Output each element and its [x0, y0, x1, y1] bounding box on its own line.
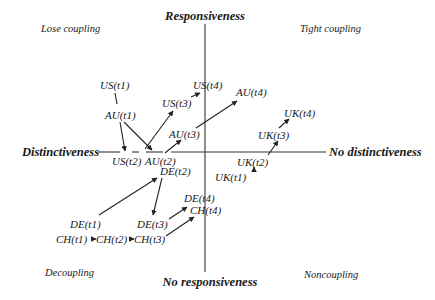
arrow-uk-t3-uk-t4 — [279, 119, 289, 128]
node-us-t1: US(t1) — [100, 79, 130, 92]
node-au-t3: AU(t3) — [168, 128, 200, 141]
node-ch-t4: CH(t4) — [190, 204, 222, 217]
node-uk-t1: UK(t1) — [215, 171, 247, 184]
node-us-t4: US(t4) — [193, 79, 223, 92]
axis-label-distinctiveness: Distinctiveness — [21, 145, 99, 159]
arrow-uk-t2-uk-t3 — [268, 141, 278, 155]
node-uk-t3: UK(t3) — [258, 129, 290, 142]
node-ch-t1: CH(t1) — [56, 233, 88, 246]
quadrant-label-lose-coupling: Lose coupling — [40, 23, 100, 34]
node-ch-t2: CH(t2) — [96, 233, 128, 246]
node-de-t1: DE(t1) — [69, 218, 101, 231]
arrow-au-t2-au-t3 — [165, 140, 181, 153]
quadrant-label-decoupling: Decoupling — [44, 267, 94, 278]
quadrant-label-noncoupling: Noncoupling — [303, 269, 358, 280]
quadrant-label-tight-coupling: Tight coupling — [300, 23, 361, 34]
arrow-us-t3-us-t4 — [191, 93, 200, 97]
axis-label-no-responsiveness: No responsiveness — [162, 275, 258, 289]
axis-label-no-distinctiveness: No distinctiveness — [328, 145, 422, 159]
arrow-de-t3-ch-t4 — [169, 207, 187, 219]
node-de-t3: DE(t3) — [136, 218, 168, 231]
node-uk-t4: UK(t4) — [284, 107, 316, 120]
arrow-au-t1-us-t2 — [120, 122, 125, 151]
node-us-t2: US(t2) — [112, 155, 142, 168]
node-uk-t2: UK(t2) — [237, 156, 269, 169]
arrow-de-t1-de-t2 — [99, 178, 157, 215]
coupling-diagram: Responsiveness No responsiveness Distinc… — [0, 0, 435, 300]
connector-us-t1-au-t1 — [115, 93, 117, 104]
arrow-au-t3-au-t4 — [196, 101, 237, 128]
node-de-t2: DE(t2) — [159, 165, 191, 178]
node-ch-t3: CH(t3) — [134, 233, 166, 246]
node-au-t4: AU(t4) — [235, 86, 267, 99]
node-au-t1: AU(t1) — [104, 109, 136, 122]
node-us-t3: US(t3) — [162, 97, 192, 110]
arrow-de-t2-de-t3 — [153, 178, 162, 215]
axis-label-responsiveness: Responsiveness — [164, 9, 245, 23]
arrow-ch-t3-ch-t4 — [166, 217, 194, 236]
